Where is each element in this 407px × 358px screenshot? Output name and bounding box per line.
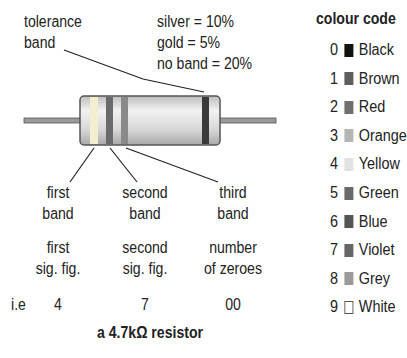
first-band-leader-line: [70, 148, 94, 182]
legend-digit: 0: [330, 41, 344, 59]
first-band-meaning-2: sig. fig.: [23, 259, 93, 279]
third-band-meaning-2: of zeroes: [198, 259, 268, 279]
tolerance-label-line1: tolerance: [24, 12, 82, 32]
second-band: [106, 97, 113, 144]
colour-swatch-icon: [344, 72, 353, 85]
colour-swatch-icon: [344, 101, 353, 114]
resistor-body: [80, 96, 220, 145]
tolerance-label-line2: band: [24, 33, 55, 53]
legend-colour-name: Orange: [359, 127, 407, 145]
second-band-example: 7: [136, 295, 154, 315]
legend-item-grey: 8Grey: [330, 269, 390, 289]
tolerance-band: [202, 97, 209, 144]
third-band: [121, 97, 128, 144]
legend-colour-name: Black: [359, 41, 394, 59]
third-band-example: 00: [220, 295, 246, 315]
legend-digit: 5: [330, 184, 344, 202]
legend-item-blue: 6Blue: [330, 212, 388, 232]
legend-item-brown: 1Brown: [330, 69, 400, 89]
right-lead: [218, 118, 276, 123]
legend-colour-name: Red: [359, 98, 385, 116]
third-band-label-1: third: [207, 183, 260, 203]
legend-colour-name: Green: [359, 184, 399, 202]
third-band-leader-line: [126, 148, 218, 182]
legend-title: colour code: [316, 10, 396, 28]
colour-swatch-icon: [344, 301, 353, 314]
first-band-meaning-1: first: [23, 238, 93, 258]
legend-colour-name: Brown: [359, 70, 400, 88]
third-band-label-2: band: [207, 204, 260, 224]
legend-digit: 3: [330, 127, 344, 145]
legend-item-black: 0Black: [330, 40, 394, 60]
tolerance-none: no band = 20%: [157, 54, 252, 74]
legend-item-white: 9White: [330, 297, 396, 317]
legend-digit: 8: [330, 270, 344, 288]
left-lead: [24, 118, 82, 123]
colour-swatch-icon: [344, 272, 353, 285]
legend-digit: 2: [330, 98, 344, 116]
legend-colour-name: Blue: [359, 213, 388, 231]
legend-digit: 6: [330, 213, 344, 231]
second-band-meaning-2: sig. fig.: [110, 259, 180, 279]
tolerance-gold: gold = 5%: [157, 33, 220, 53]
legend-colour-name: Grey: [359, 270, 390, 288]
colour-swatch-icon: [344, 158, 353, 171]
third-band-meaning-1: number: [198, 238, 268, 258]
legend-item-green: 5Green: [330, 183, 399, 203]
legend-colour-name: Yellow: [359, 155, 400, 173]
legend-colour-name: Violet: [359, 241, 395, 259]
first-band: [90, 97, 98, 144]
second-band-label-2: band: [119, 204, 172, 224]
colour-swatch-icon: [344, 44, 353, 57]
second-band-label-1: second: [119, 183, 172, 203]
second-band-meaning-1: second: [110, 238, 180, 258]
colour-swatch-icon: [344, 244, 353, 257]
legend-digit: 1: [330, 70, 344, 88]
legend-item-yellow: 4Yellow: [330, 154, 400, 174]
legend-digit: 4: [330, 155, 344, 173]
first-band-example: 4: [49, 295, 67, 315]
legend-digit: 7: [330, 241, 344, 259]
legend-colour-name: White: [359, 298, 396, 316]
tolerance-silver: silver = 10%: [157, 12, 234, 32]
first-band-label-2: band: [32, 204, 85, 224]
colour-swatch-icon: [344, 187, 353, 200]
legend-item-orange: 3Orange: [330, 126, 407, 146]
second-band-leader-line: [110, 148, 137, 182]
legend-item-red: 2Red: [330, 97, 385, 117]
legend-item-violet: 7Violet: [330, 240, 395, 260]
colour-swatch-icon: [344, 215, 353, 228]
example-prefix: i.e: [11, 295, 26, 315]
first-band-label-1: first: [32, 183, 85, 203]
caption: a 4.7kΩ resistor: [80, 323, 221, 343]
colour-swatch-icon: [344, 129, 353, 142]
legend-digit: 9: [330, 298, 344, 316]
